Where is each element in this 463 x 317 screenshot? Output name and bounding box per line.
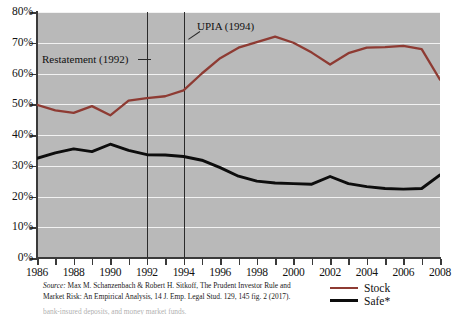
legend-item-stock: Stock [330,281,390,294]
source-line-2: Market Risk: An Empirical Analysis, 14 J… [43,292,290,301]
series-line-safe [37,144,440,189]
y-axis-label: 80% [0,6,33,17]
x-axis-label: 2002 [310,266,350,278]
legend-label-stock: Stock [364,282,390,294]
x-axis-tick [440,259,442,265]
legend-swatch-stock [330,287,358,289]
series-line-stock [37,37,440,116]
x-axis-tick [74,259,76,265]
y-axis-label: 30% [0,160,33,171]
x-axis-tick [293,259,295,265]
x-axis-tick [55,259,57,265]
x-axis-tick [147,259,149,265]
x-axis-tick [184,259,186,265]
x-axis-label: 1986 [17,266,57,278]
y-axis-label: 0% [0,252,33,263]
x-axis-label: 2008 [420,266,460,278]
series-lines [37,12,440,258]
legend-item-safe: Safe* [330,294,390,307]
x-axis-tick [92,259,94,265]
x-axis-tick [330,259,332,265]
x-axis-label: 1988 [54,266,94,278]
y-axis-label: 40% [0,129,33,140]
y-axis-label: 60% [0,68,33,79]
x-axis-tick [348,259,350,265]
y-axis-label: 20% [0,191,33,202]
y-axis-label: 50% [0,98,33,109]
footnote-partial: bank-insured deposits, and money market … [43,307,343,315]
x-axis-tick [403,259,405,265]
source-line-1: Max M. Schanzenbach & Robert H. Sitkoff,… [66,281,291,290]
y-axis-label: 10% [0,221,33,232]
x-axis-tick [422,259,424,265]
x-axis-tick [312,259,314,265]
source-label: Source: [43,281,66,290]
x-axis-label: 2006 [383,266,423,278]
source-note: Source: Max M. Schanzenbach & Robert H. … [43,281,308,302]
x-axis-tick [110,259,112,265]
x-axis-label: 1990 [90,266,130,278]
x-axis-tick [239,259,241,265]
x-axis-tick [275,259,277,265]
legend-swatch-safe [330,299,358,302]
chart-legend: Stock Safe* [330,281,390,307]
x-axis-tick [165,259,167,265]
x-axis-tick [220,259,222,265]
x-axis-label: 1992 [127,266,167,278]
x-axis-tick [367,259,369,265]
x-axis-tick [202,259,204,265]
x-axis-label: 2004 [347,266,387,278]
x-axis-tick [37,259,39,265]
x-axis-label: 1998 [237,266,277,278]
x-axis-label: 1994 [164,266,204,278]
x-axis-tick [257,259,259,265]
x-axis-label: 1996 [200,266,240,278]
y-axis-label: 70% [0,37,33,48]
x-axis-tick [385,259,387,265]
x-axis-tick [129,259,131,265]
chart-figure: 0%10%20%30%40%50%60%70%80% 1986198819901… [0,0,463,317]
legend-label-safe: Safe* [364,295,390,307]
x-axis-label: 2000 [273,266,313,278]
